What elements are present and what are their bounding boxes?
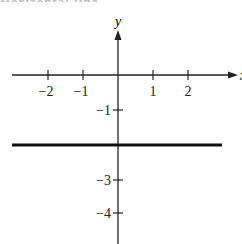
x-tick-label: 2 (185, 84, 192, 99)
x-tick-label: −1 (74, 84, 89, 99)
y-tick-label: −3 (96, 173, 111, 188)
y-axis-arrow-icon (115, 30, 122, 40)
x-axis-arrow-icon (228, 72, 238, 79)
y-axis-label: y (113, 14, 122, 29)
y-tick-label: −4 (96, 206, 111, 221)
x-axis-label: x (239, 68, 242, 83)
x-tick-label: 1 (150, 84, 157, 99)
x-tick-label: −2 (39, 84, 54, 99)
coordinate-plot: y x −2 −1 1 2 −1 −3 −4 (0, 0, 242, 244)
y-tick-label: −1 (96, 103, 111, 118)
